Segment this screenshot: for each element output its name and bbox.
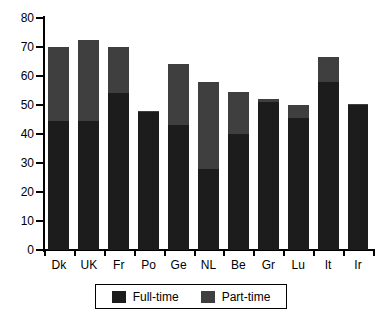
y-axis-label: 70 bbox=[0, 41, 34, 53]
bar-Po bbox=[138, 18, 159, 250]
legend-item-full-time: Full-time bbox=[112, 291, 179, 303]
x-axis-tick bbox=[313, 249, 315, 256]
x-axis-tick bbox=[164, 249, 166, 256]
bar-segment-full-time bbox=[198, 169, 219, 250]
y-axis-tick bbox=[36, 75, 44, 77]
bar-segment-full-time bbox=[288, 118, 309, 250]
bar-segment-part-time bbox=[228, 92, 249, 134]
bar-Fr bbox=[108, 18, 129, 250]
bar-segment-part-time bbox=[108, 47, 129, 93]
bar-segment-full-time bbox=[108, 93, 129, 250]
x-axis-label-It: It bbox=[325, 258, 332, 272]
x-axis-label-Lu: Lu bbox=[292, 258, 305, 272]
bar-Ge bbox=[168, 18, 189, 250]
y-axis-label: 30 bbox=[0, 157, 34, 169]
x-axis-tick bbox=[74, 249, 76, 256]
x-axis-tick bbox=[343, 249, 345, 256]
x-axis-tick bbox=[253, 249, 255, 256]
y-axis-label: 80 bbox=[0, 12, 34, 24]
legend-label-full-time: Full-time bbox=[133, 291, 179, 303]
legend-label-part-time: Part-time bbox=[222, 291, 271, 303]
bar-segment-part-time bbox=[138, 111, 159, 112]
bar-Ir bbox=[348, 18, 369, 250]
bar-Be bbox=[228, 18, 249, 250]
bar-segment-part-time bbox=[78, 40, 99, 121]
x-axis-tick bbox=[373, 249, 375, 256]
y-axis-tick bbox=[36, 249, 44, 251]
x-axis-label-NL: NL bbox=[201, 258, 216, 272]
bar-segment-part-time bbox=[288, 105, 309, 118]
bar-segment-full-time bbox=[138, 112, 159, 250]
y-axis-tick bbox=[36, 220, 44, 222]
chart-legend: Full-time Part-time bbox=[95, 284, 287, 309]
legend-swatch-part-time bbox=[201, 291, 215, 303]
bar-It bbox=[318, 18, 339, 250]
y-axis-label: 50 bbox=[0, 99, 34, 111]
y-axis-label: 40 bbox=[0, 128, 34, 140]
stacked-bar-chart: 01020304050607080 DkUKFrPoGeNLBeGrLuItIr… bbox=[0, 0, 378, 327]
y-axis-label: 20 bbox=[0, 186, 34, 198]
legend-swatch-full-time bbox=[112, 291, 126, 303]
bar-Lu bbox=[288, 18, 309, 250]
y-axis-tick bbox=[36, 104, 44, 106]
x-axis-label-Ir: Ir bbox=[354, 258, 361, 272]
legend-item-part-time: Part-time bbox=[201, 291, 271, 303]
bar-segment-full-time bbox=[348, 105, 369, 250]
x-axis-label-Be: Be bbox=[231, 258, 246, 272]
y-axis-label: 10 bbox=[0, 215, 34, 227]
bar-segment-part-time bbox=[348, 104, 369, 105]
y-axis-tick bbox=[36, 133, 44, 135]
bar-segment-part-time bbox=[168, 64, 189, 125]
bar-segment-full-time bbox=[48, 121, 69, 250]
bar-segment-full-time bbox=[168, 125, 189, 250]
x-axis-tick bbox=[283, 249, 285, 256]
x-axis-label-Fr: Fr bbox=[113, 258, 124, 272]
y-axis-tick bbox=[36, 17, 44, 19]
x-axis-tick bbox=[104, 249, 106, 256]
bar-segment-full-time bbox=[318, 82, 339, 250]
plot-area bbox=[44, 18, 373, 250]
y-axis-label: 0 bbox=[0, 244, 34, 256]
y-axis-label: 60 bbox=[0, 70, 34, 82]
x-axis-tick bbox=[44, 249, 46, 256]
bar-segment-part-time bbox=[258, 99, 279, 102]
bar-NL bbox=[198, 18, 219, 250]
x-axis-tick bbox=[223, 249, 225, 256]
x-axis-label-UK: UK bbox=[81, 258, 98, 272]
x-axis-label-Dk: Dk bbox=[52, 258, 67, 272]
y-axis-tick bbox=[36, 162, 44, 164]
bar-segment-part-time bbox=[48, 47, 69, 121]
bar-Gr bbox=[258, 18, 279, 250]
y-axis-tick bbox=[36, 46, 44, 48]
bar-segment-part-time bbox=[318, 57, 339, 82]
bar-segment-full-time bbox=[78, 121, 99, 250]
x-axis-label-Gr: Gr bbox=[262, 258, 275, 272]
bar-segment-full-time bbox=[228, 134, 249, 250]
x-axis-tick bbox=[194, 249, 196, 256]
bar-UK bbox=[78, 18, 99, 250]
x-axis-label-Ge: Ge bbox=[171, 258, 187, 272]
x-axis-tick bbox=[134, 249, 136, 256]
bar-segment-full-time bbox=[258, 102, 279, 250]
y-axis-tick bbox=[36, 191, 44, 193]
bar-segment-part-time bbox=[198, 82, 219, 169]
bar-Dk bbox=[48, 18, 69, 250]
x-axis-label-Po: Po bbox=[141, 258, 156, 272]
